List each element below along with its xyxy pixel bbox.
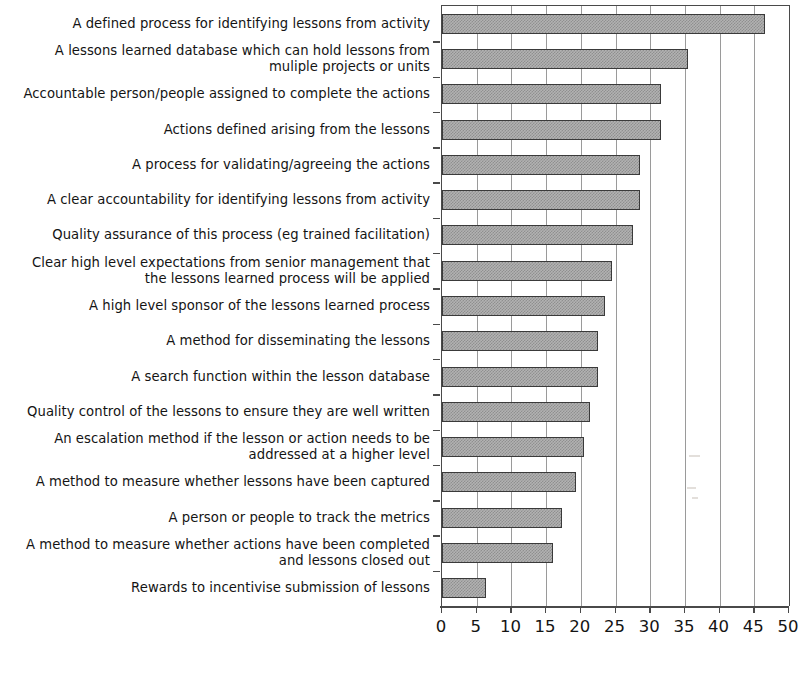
x-axis-tick bbox=[580, 606, 581, 613]
bar bbox=[442, 261, 612, 281]
x-axis-tick bbox=[510, 606, 511, 613]
category-label: A lessons learned database which can hol… bbox=[0, 43, 430, 75]
bar bbox=[442, 402, 590, 422]
y-axis-tick bbox=[433, 147, 440, 148]
y-axis-tick bbox=[433, 253, 440, 254]
bar bbox=[442, 155, 640, 175]
gridline bbox=[685, 6, 686, 606]
y-axis-tick bbox=[433, 430, 440, 431]
bar bbox=[442, 120, 661, 140]
y-axis-tick bbox=[433, 571, 440, 572]
category-label: A clear accountability for identifying l… bbox=[0, 192, 430, 208]
bar bbox=[442, 225, 633, 245]
bar bbox=[442, 437, 584, 457]
x-axis-tick bbox=[684, 606, 685, 613]
bar bbox=[442, 367, 598, 387]
bar bbox=[442, 14, 765, 34]
y-axis-tick bbox=[433, 535, 440, 536]
bar bbox=[442, 190, 640, 210]
y-axis-tick bbox=[433, 41, 440, 42]
category-label: A method to measure whether lessons have… bbox=[0, 474, 430, 490]
y-axis-tick bbox=[433, 112, 440, 113]
horizontal-bar-chart: A defined process for identifying lesson… bbox=[0, 0, 806, 676]
plot-area bbox=[441, 6, 790, 606]
category-label-column: A defined process for identifying lesson… bbox=[0, 6, 436, 606]
x-axis-tick-label: 50 bbox=[765, 617, 806, 636]
scan-artifact-1 bbox=[689, 455, 700, 457]
gridline bbox=[754, 6, 755, 606]
category-label: A process for validating/agreeing the ac… bbox=[0, 157, 430, 173]
bar bbox=[442, 472, 576, 492]
x-axis-tick bbox=[441, 606, 442, 613]
scan-artifact-2 bbox=[687, 487, 696, 489]
category-label: A defined process for identifying lesson… bbox=[0, 16, 430, 32]
category-label: Accountable person/people assigned to co… bbox=[0, 86, 430, 102]
bar bbox=[442, 331, 598, 351]
y-axis-tick bbox=[433, 359, 440, 360]
x-axis-tick bbox=[476, 606, 477, 613]
category-label: A method to measure whether actions have… bbox=[0, 537, 430, 569]
y-axis-tick bbox=[433, 182, 440, 183]
category-label: Quality control of the lessons to ensure… bbox=[0, 404, 430, 420]
x-axis-tick bbox=[753, 606, 754, 613]
bar bbox=[442, 508, 562, 528]
y-axis-tick bbox=[433, 394, 440, 395]
gridline bbox=[720, 6, 721, 606]
category-label: Actions defined arising from the lessons bbox=[0, 122, 430, 138]
x-axis-tick bbox=[649, 606, 650, 613]
category-label: Rewards to incentivise submission of les… bbox=[0, 580, 430, 596]
bar bbox=[442, 543, 553, 563]
category-label: A person or people to track the metrics bbox=[0, 510, 430, 526]
bar bbox=[442, 49, 688, 69]
bar bbox=[442, 84, 661, 104]
x-axis-tick bbox=[788, 606, 789, 613]
category-label: An escalation method if the lesson or ac… bbox=[0, 431, 430, 463]
category-label: A high level sponsor of the lessons lear… bbox=[0, 298, 430, 314]
category-label: Quality assurance of this process (eg tr… bbox=[0, 227, 430, 243]
bar bbox=[442, 578, 486, 598]
bar bbox=[442, 296, 605, 316]
y-axis-tick bbox=[433, 218, 440, 219]
y-axis-tick bbox=[433, 288, 440, 289]
x-axis-tick bbox=[615, 606, 616, 613]
category-label: Clear high level expectations from senio… bbox=[0, 255, 430, 287]
y-axis-tick bbox=[433, 77, 440, 78]
category-label: A search function within the lesson data… bbox=[0, 369, 430, 385]
plot-inner bbox=[442, 6, 789, 606]
x-axis-tick bbox=[719, 606, 720, 613]
y-axis-tick bbox=[433, 324, 440, 325]
x-axis-tick bbox=[545, 606, 546, 613]
y-axis-tick bbox=[433, 465, 440, 466]
scan-artifact-3 bbox=[692, 497, 698, 499]
y-axis-tick bbox=[433, 500, 440, 501]
category-label: A method for disseminating the lessons bbox=[0, 333, 430, 349]
